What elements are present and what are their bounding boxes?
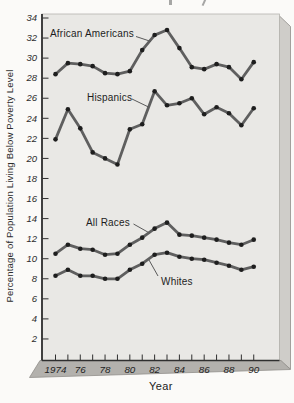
data-point bbox=[53, 137, 58, 142]
data-point bbox=[78, 273, 83, 278]
data-point bbox=[90, 150, 95, 155]
data-point bbox=[103, 276, 108, 281]
data-point bbox=[177, 232, 182, 237]
y-tick-label: 2 bbox=[31, 333, 38, 344]
data-point bbox=[66, 267, 71, 272]
data-point bbox=[227, 263, 232, 268]
data-point bbox=[78, 126, 83, 131]
y-tick-label: 18 bbox=[26, 173, 37, 184]
data-point bbox=[202, 235, 207, 240]
data-point bbox=[115, 162, 120, 167]
data-point bbox=[239, 242, 244, 247]
data-point bbox=[115, 251, 120, 256]
data-point bbox=[66, 61, 71, 66]
x-tick-label: 86 bbox=[199, 364, 210, 375]
data-point bbox=[165, 28, 170, 33]
data-point bbox=[189, 65, 194, 70]
y-tick-label: 16 bbox=[26, 193, 37, 204]
y-tick-label: 32 bbox=[26, 32, 37, 43]
y-tick-label: 12 bbox=[26, 233, 37, 244]
y-tick-label: 4 bbox=[32, 313, 37, 324]
x-tick-label: 88 bbox=[224, 364, 235, 375]
data-point bbox=[239, 123, 244, 128]
data-point bbox=[189, 233, 194, 238]
x-tick-label: 90 bbox=[248, 364, 259, 375]
data-point bbox=[214, 62, 219, 67]
data-point bbox=[165, 220, 170, 225]
data-point bbox=[177, 254, 182, 259]
data-point bbox=[177, 46, 182, 51]
data-point bbox=[53, 72, 58, 77]
data-point bbox=[103, 252, 108, 257]
data-point bbox=[177, 101, 182, 106]
data-point bbox=[103, 156, 108, 161]
data-point bbox=[214, 105, 219, 110]
data-point bbox=[78, 246, 83, 251]
data-point bbox=[140, 235, 145, 240]
data-point bbox=[115, 276, 120, 281]
x-tick-label: 80 bbox=[124, 364, 135, 375]
data-point bbox=[140, 48, 145, 53]
series-label-all-races: All Races bbox=[86, 217, 130, 228]
data-point bbox=[115, 72, 120, 77]
y-tick-label: 26 bbox=[25, 92, 37, 103]
data-point bbox=[128, 242, 133, 247]
y-tick-label: 24 bbox=[25, 113, 37, 124]
data-point bbox=[251, 237, 256, 242]
series-label-african-americans: African Americans bbox=[50, 28, 134, 39]
data-point bbox=[90, 64, 95, 69]
data-point bbox=[189, 96, 194, 101]
data-point bbox=[66, 107, 71, 112]
data-point bbox=[189, 256, 194, 261]
y-axis-title: Percentage of Population Living Below Po… bbox=[4, 69, 15, 302]
data-point bbox=[227, 240, 232, 245]
x-tick-label: 76 bbox=[75, 364, 86, 375]
data-point bbox=[140, 122, 145, 127]
y-tick-label: 14 bbox=[26, 213, 37, 224]
plot-panel bbox=[42, 14, 280, 361]
data-point bbox=[66, 242, 71, 247]
x-tick-label: 1974 bbox=[45, 364, 67, 375]
data-point bbox=[239, 267, 244, 272]
data-point bbox=[152, 89, 157, 94]
x-tick-label: 78 bbox=[100, 364, 111, 375]
data-point bbox=[53, 251, 58, 256]
data-point bbox=[202, 257, 207, 262]
data-point bbox=[251, 60, 256, 65]
series-label-whites: Whites bbox=[161, 276, 193, 287]
data-point bbox=[227, 65, 232, 70]
data-point bbox=[165, 250, 170, 255]
data-point bbox=[90, 273, 95, 278]
data-point bbox=[202, 67, 207, 72]
data-point bbox=[202, 112, 207, 117]
data-point bbox=[128, 69, 133, 74]
data-point bbox=[152, 252, 157, 257]
data-point bbox=[152, 33, 157, 38]
y-tick-label: 30 bbox=[26, 52, 37, 63]
x-tick-label: 82 bbox=[149, 364, 160, 375]
poverty-line-chart-canvas: 3432302826242220181614121086421974767880… bbox=[0, 0, 294, 403]
data-point bbox=[53, 273, 58, 278]
y-tick-label: 20 bbox=[25, 153, 37, 164]
data-point bbox=[90, 247, 95, 252]
data-point bbox=[214, 237, 219, 242]
y-tick-label: 8 bbox=[32, 273, 38, 284]
x-tick-label: 84 bbox=[174, 364, 185, 375]
x-axis-title: Year bbox=[42, 380, 280, 392]
y-tick-label: 34 bbox=[26, 12, 37, 23]
data-point bbox=[103, 71, 108, 76]
y-tick-label: 6 bbox=[32, 293, 38, 304]
data-point bbox=[128, 127, 133, 132]
data-point bbox=[78, 62, 83, 67]
data-point bbox=[239, 77, 244, 82]
y-tick-label: 10 bbox=[26, 253, 37, 264]
data-point bbox=[251, 106, 256, 111]
y-tick-label: 28 bbox=[25, 72, 37, 83]
data-point bbox=[128, 267, 133, 272]
scanned-textbook-chart-page: 3432302826242220181614121086421974767880… bbox=[0, 0, 294, 403]
data-point bbox=[251, 264, 256, 269]
data-point bbox=[214, 260, 219, 265]
data-point bbox=[227, 111, 232, 116]
data-point bbox=[165, 103, 170, 108]
series-label-hispanics: Hispanics bbox=[87, 92, 132, 103]
